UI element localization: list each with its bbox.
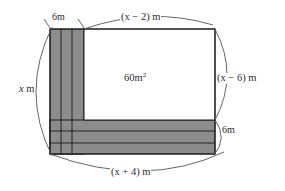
bottom-width-label: (x + 4) m [110, 167, 151, 178]
left-height-unit: m [24, 83, 35, 94]
inner-area-exponent: 2 [143, 71, 147, 79]
top-six-brace-right [78, 19, 84, 28]
inner-area-value: 60m [124, 72, 143, 83]
left-height-label: x m [18, 84, 35, 95]
top-six-brace-left [44, 19, 50, 28]
right-height-label: (x − 6) m [216, 73, 257, 84]
top-width-label: (x − 2) m [120, 12, 161, 23]
path-width-top-label: 6m [51, 12, 66, 22]
geometry-figure: (x − 2) m (x − 6) m x m (x + 4) m 60m2 6… [0, 0, 285, 191]
inner-white-rectangle [84, 29, 215, 120]
figure-canvas [0, 0, 285, 191]
path-width-bottom-label: 6m [221, 125, 236, 135]
horizontal-shaded-band [50, 120, 215, 154]
inner-area-label: 60m2 [123, 73, 147, 84]
